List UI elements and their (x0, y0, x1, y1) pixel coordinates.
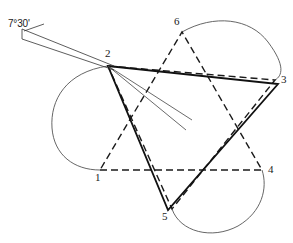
angle-wedge (22, 29, 114, 70)
vertex-label-3: 3 (281, 74, 287, 85)
solid-rotated-triangle (108, 66, 278, 210)
arc-group (52, 21, 281, 233)
angle-line-upper (22, 29, 114, 66)
vertex-label-6: 6 (174, 16, 180, 27)
dashed-triangle-2-3-5 (108, 66, 275, 209)
arc-left-icon (52, 66, 108, 170)
vertex-label-5: 5 (162, 211, 168, 222)
technical-diagram: 7°30' 1 2 3 4 5 6 (0, 0, 293, 243)
vertex-label-1: 1 (95, 172, 101, 183)
pointer-line-lower (108, 66, 186, 130)
angle-line-lower (22, 39, 114, 70)
arc-lower-icon (172, 170, 264, 233)
vertex-label-4: 4 (268, 164, 274, 175)
vertex-label-2: 2 (105, 48, 111, 59)
arc-upper-right-icon (182, 21, 281, 80)
angle-annotation-label: 7°30' (8, 19, 30, 29)
diagram-canvas (0, 0, 293, 243)
dashed-triangle-1-4-6 (100, 32, 262, 170)
